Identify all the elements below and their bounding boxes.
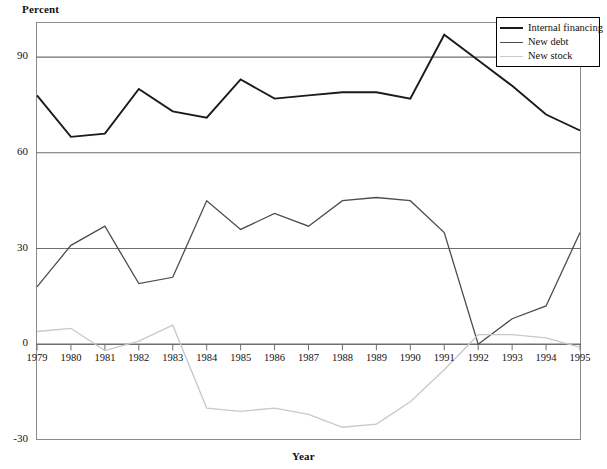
- data-series-line: [37, 325, 580, 427]
- y-axis-tick-label: 60: [0, 145, 28, 157]
- legend-item[interactable]: New stock: [500, 49, 595, 63]
- chart-figure: Percent Year Internal financingNew debtN…: [0, 0, 607, 469]
- plot-area: [36, 22, 581, 440]
- data-series-line: [37, 198, 580, 345]
- chart-legend: Internal financingNew debtNew stock: [496, 17, 600, 67]
- y-axis-tick-label: 30: [0, 241, 28, 253]
- legend-item[interactable]: New debt: [500, 35, 595, 49]
- legend-line-icon: [500, 42, 523, 43]
- legend-item[interactable]: Internal financing: [500, 21, 595, 35]
- legend-item-label: Internal financing: [528, 21, 603, 35]
- y-axis-tick-label: 90: [0, 49, 28, 61]
- x-axis-tick-label: 1995: [560, 352, 600, 363]
- x-axis-title: Year: [0, 450, 607, 462]
- y-axis-title: Percent: [22, 3, 59, 15]
- legend-line-icon: [500, 56, 523, 57]
- legend-line-icon: [500, 27, 523, 29]
- y-axis-tick-label: -30: [0, 432, 28, 444]
- series-canvas: [36, 22, 581, 440]
- legend-item-label: New debt: [528, 35, 569, 49]
- legend-item-label: New stock: [528, 49, 573, 63]
- y-axis-tick-label: 0: [0, 336, 28, 348]
